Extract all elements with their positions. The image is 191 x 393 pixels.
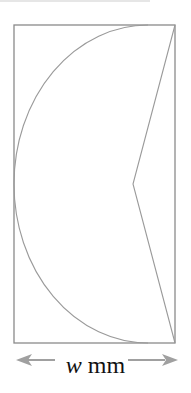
figure — [0, 0, 191, 393]
rectangle — [14, 25, 175, 343]
chevron-line — [133, 25, 175, 343]
semicircle-arc — [14, 25, 148, 343]
width-label: w mm — [0, 352, 191, 378]
width-unit: mm — [88, 352, 125, 378]
width-variable: w — [66, 352, 82, 378]
